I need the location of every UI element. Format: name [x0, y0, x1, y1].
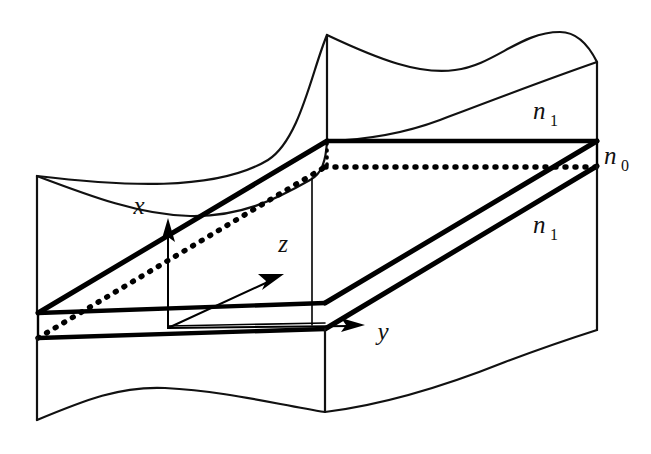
axis-label-z: z [277, 230, 288, 257]
waveguide-diagram-canvas: x z y n 1 n 0 n 1 [0, 0, 651, 454]
waveguide-figure: x z y n 1 n 0 n 1 [0, 0, 651, 454]
index-label-core-subscript: 0 [621, 157, 629, 174]
index-label-cladding-top-subscript: 1 [550, 112, 558, 129]
index-label-cladding-bottom-symbol: n [533, 211, 546, 238]
axis-label-y: y [374, 318, 389, 345]
index-label-cladding-bottom-subscript: 1 [550, 226, 558, 243]
index-label-cladding-top-symbol: n [533, 97, 546, 124]
axis-label-x: x [132, 192, 144, 219]
index-label-core-symbol: n [604, 142, 617, 169]
